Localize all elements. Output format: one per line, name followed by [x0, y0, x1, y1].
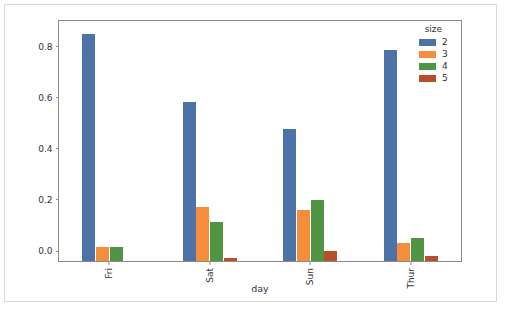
- x-axis-tick: Sun: [306, 261, 315, 285]
- bar: [324, 251, 337, 261]
- x-axis-label: day: [58, 283, 462, 294]
- y-axis-tick: 0.4: [38, 144, 59, 154]
- bar: [82, 34, 95, 261]
- legend-item-label: 5: [442, 74, 448, 83]
- bar: [96, 247, 109, 261]
- legend-item[interactable]: 3: [419, 50, 448, 59]
- y-axis-tick-mark: [56, 148, 60, 149]
- y-axis-tick: 0.2: [38, 195, 59, 205]
- legend-entries: 2345: [419, 38, 448, 83]
- legend-item-label: 4: [442, 62, 448, 71]
- legend-item[interactable]: 4: [419, 62, 448, 71]
- legend-color-swatch: [419, 51, 436, 58]
- bar: [196, 207, 209, 261]
- legend-color-swatch: [419, 39, 436, 46]
- bar: [397, 243, 410, 261]
- y-axis-tick-label: 0.0: [38, 246, 52, 256]
- y-axis-tick: 0.0: [38, 246, 59, 256]
- x-axis-tick-mark: [410, 261, 411, 265]
- bar: [425, 256, 438, 261]
- y-axis-tick: 0.8: [38, 42, 59, 52]
- legend: size 2345: [413, 22, 454, 87]
- legend-item-label: 3: [442, 50, 448, 59]
- y-axis-tick: 0.6: [38, 93, 59, 103]
- bar: [311, 200, 324, 261]
- y-axis-tick-mark: [56, 251, 60, 252]
- bar: [283, 129, 296, 262]
- plot-axes: 0.00.20.40.60.8FriSatSunThur: [58, 20, 462, 262]
- x-axis-tick: Sat: [205, 261, 214, 282]
- legend-color-swatch: [419, 63, 436, 70]
- figure: 0.00.20.40.60.8FriSatSunThur day size 23…: [0, 0, 507, 309]
- legend-item[interactable]: 5: [419, 74, 448, 83]
- bar: [210, 222, 223, 261]
- y-axis-tick-mark: [56, 199, 60, 200]
- legend-item[interactable]: 2: [419, 38, 448, 47]
- bar: [110, 247, 123, 261]
- bar: [411, 238, 424, 261]
- legend-color-swatch: [419, 75, 436, 82]
- x-axis-tick-mark: [209, 261, 210, 265]
- x-axis-tick-mark: [109, 261, 110, 265]
- x-axis-tick-mark: [310, 261, 311, 265]
- x-axis-tick-label: Fri: [105, 268, 114, 279]
- y-axis-tick-label: 0.8: [38, 42, 52, 52]
- bar: [224, 258, 237, 261]
- y-axis-tick-mark: [56, 97, 60, 98]
- y-axis-tick-mark: [56, 46, 60, 47]
- legend-item-label: 2: [442, 38, 448, 47]
- y-axis-tick-label: 0.4: [38, 144, 52, 154]
- bar: [297, 210, 310, 261]
- x-axis-tick: Fri: [105, 261, 114, 278]
- y-axis-tick-label: 0.6: [38, 93, 52, 103]
- y-axis-tick-label: 0.2: [38, 195, 52, 205]
- x-axis-tick-label: Sat: [205, 268, 214, 283]
- bar: [183, 102, 196, 261]
- legend-title: size: [419, 25, 448, 34]
- plot-area: 0.00.20.40.60.8FriSatSunThur: [59, 21, 461, 261]
- bar: [384, 50, 397, 261]
